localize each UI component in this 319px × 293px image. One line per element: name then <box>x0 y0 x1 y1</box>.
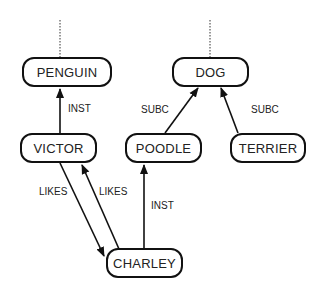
edge-likes-charley-victor <box>82 165 119 249</box>
edge-likes-victor-charley <box>60 163 104 256</box>
edge-label-likes-victor-charley: LIKES <box>39 186 67 197</box>
edge-subc-poodle-dog <box>165 88 198 133</box>
node-charley: CHARLEY <box>106 248 183 278</box>
node-dog: DOG <box>172 57 249 87</box>
edge-label-subc-poodle-dog: SUBC <box>141 104 169 115</box>
edge-label-likes-charley-victor: LIKES <box>99 186 127 197</box>
node-penguin: PENGUIN <box>22 57 112 87</box>
semantic-network-diagram: PENGUIN DOG VICTOR POODLE TERRIER CHARLE… <box>0 0 319 293</box>
edge-subc-terrier-dog <box>221 88 238 133</box>
edge-label-subc-terrier-dog: SUBC <box>251 104 279 115</box>
edge-label-inst-charley-poodle: INST <box>151 200 174 211</box>
node-label: VICTOR <box>33 141 83 156</box>
node-label: PENGUIN <box>37 65 98 80</box>
node-terrier: TERRIER <box>230 133 306 163</box>
node-label: DOG <box>195 65 225 80</box>
node-label: TERRIER <box>239 141 297 156</box>
node-label: POODLE <box>136 141 191 156</box>
node-label: CHARLEY <box>113 256 176 271</box>
edge-label-inst-victor-penguin: INST <box>68 103 91 114</box>
node-poodle: POODLE <box>125 133 202 163</box>
node-victor: VICTOR <box>20 133 97 163</box>
